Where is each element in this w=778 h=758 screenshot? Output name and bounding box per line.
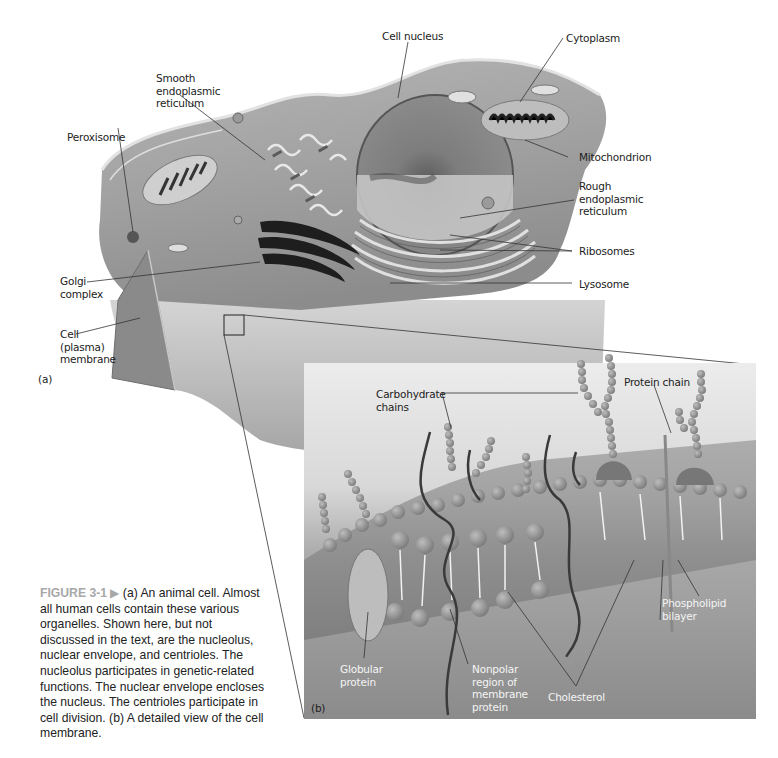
label-cytoplasm: Cytoplasm bbox=[566, 32, 620, 45]
label-globular-protein: Globular protein bbox=[340, 663, 383, 688]
panel-a-label: (a) bbox=[38, 373, 52, 386]
label-peroxisome: Peroxisome bbox=[67, 131, 125, 144]
figure-caption: FIGURE 3-1 ▶ (a) An animal cell. Almost … bbox=[40, 586, 265, 742]
label-golgi-complex: Golgi complex bbox=[60, 275, 103, 300]
label-mitochondrion: Mitochondrion bbox=[579, 151, 651, 164]
label-smooth-er: Smooth endoplasmic reticulum bbox=[156, 72, 220, 110]
label-phospholipid-bilayer: Phospholipid bilayer bbox=[662, 597, 726, 622]
caption-text: (a) An animal cell. Almost all human cel… bbox=[40, 586, 264, 740]
panel-b-label: (b) bbox=[311, 702, 325, 715]
label-cholesterol: Cholesterol bbox=[548, 691, 605, 704]
label-lysosome: Lysosome bbox=[579, 278, 629, 291]
label-cell-nucleus: Cell nucleus bbox=[382, 30, 443, 43]
figure-number: FIGURE 3-1 bbox=[40, 586, 107, 600]
label-nonpolar-region: Nonpolar region of membrane protein bbox=[472, 663, 528, 713]
label-protein-chain: Protein chain bbox=[624, 376, 690, 389]
label-carbohydrate-chains: Carbohydrate chains bbox=[376, 388, 446, 413]
label-cell-membrane: Cell (plasma) membrane bbox=[60, 328, 116, 366]
label-rough-er: Rough endoplasmic reticulum bbox=[579, 180, 643, 218]
label-ribosomes: Ribosomes bbox=[579, 245, 635, 258]
